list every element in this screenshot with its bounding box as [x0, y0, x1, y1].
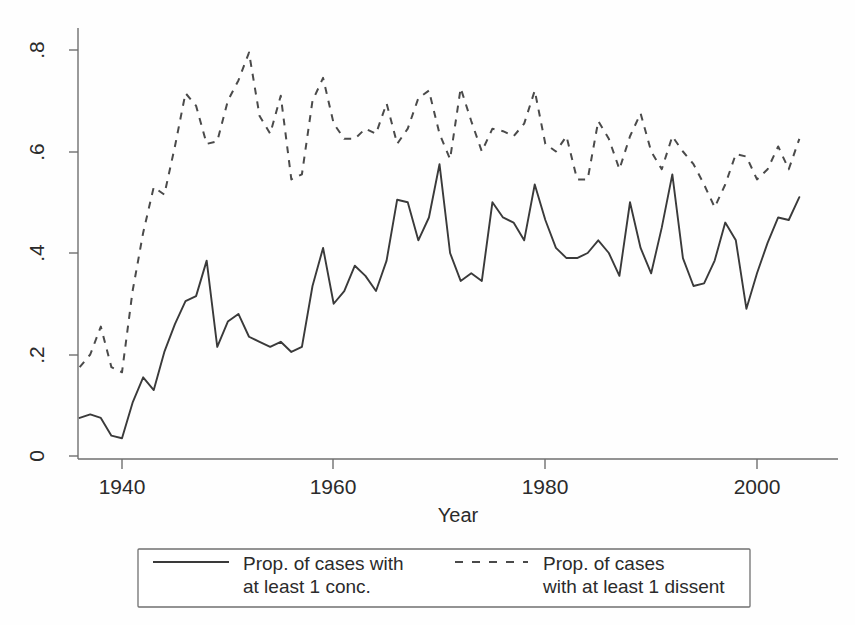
y-tick-labels: .8 .6 .4 .2 0 [25, 41, 48, 462]
y-tick-label-0.8: .8 [25, 41, 48, 59]
y-tick-label-0.6: .6 [25, 143, 48, 161]
y-tick-label-0.2: .2 [25, 346, 48, 364]
x-tick-label-1940: 1940 [99, 475, 146, 498]
x-tick-labels: 1940 1960 1980 2000 [99, 475, 781, 498]
axis-group [69, 28, 838, 469]
series-line-concurrence [80, 164, 800, 438]
legend-label-2-line-1: Prop. of cases [543, 553, 664, 574]
y-tick-label-0.4: .4 [25, 244, 48, 262]
series-line-dissent [80, 53, 800, 373]
line-chart-svg: .8 .6 .4 .2 0 1940 1960 1980 2000 Year P… [0, 0, 855, 625]
legend-label-1-line-1: Prop. of cases with [243, 553, 404, 574]
legend-label-2-line-2: with at least 1 dissent [542, 576, 725, 597]
chart-figure: .8 .6 .4 .2 0 1940 1960 1980 2000 Year P… [0, 0, 855, 625]
chart-legend: Prop. of cases with at least 1 conc. Pro… [138, 549, 750, 607]
x-axis-title: Year [438, 504, 479, 526]
x-tick-label-1960: 1960 [310, 475, 357, 498]
x-tick-label-2000: 2000 [734, 475, 781, 498]
series-group [80, 53, 800, 439]
y-tick-label-0: 0 [25, 450, 48, 462]
legend-label-1-line-2: at least 1 conc. [243, 576, 371, 597]
x-tick-label-1980: 1980 [522, 475, 569, 498]
